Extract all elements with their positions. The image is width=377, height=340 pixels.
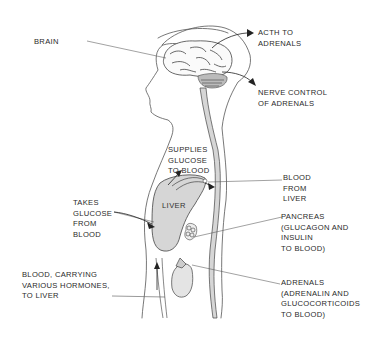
spinal-cord-icon <box>200 88 220 318</box>
label-line: ADRENALS <box>281 278 360 289</box>
label-line: BLOOD, CARRYING <box>22 270 110 281</box>
label-line: NERVE CONTROL <box>258 88 327 99</box>
label-line: VARIOUS HORMONES, <box>22 281 110 292</box>
label-line: TO BLOOD) <box>281 244 349 255</box>
label-line: GLUCOSE <box>73 209 112 220</box>
label-line: FROM <box>73 219 112 230</box>
pancreas-icon <box>185 223 197 240</box>
label-line: SUPPLIES <box>168 145 210 156</box>
label-brain: BRAIN <box>34 37 59 48</box>
hormone-glucose-diagram: BRAIN ACTH TOADRENALS NERVE CONTROLOF AD… <box>0 0 377 340</box>
label-line: OF ADRENALS <box>258 99 327 110</box>
liver-icon <box>152 175 206 251</box>
label-line: TO BLOOD) <box>281 310 360 321</box>
label-line: BLOOD <box>283 173 311 184</box>
label-line: (ADRENALIN AND <box>281 289 360 300</box>
kidney-adrenal-icon <box>172 258 193 297</box>
label-supplies-glucose: SUPPLIESGLUCOSETO BLOOD <box>168 145 210 177</box>
label-line: (GLUCAGON AND <box>281 223 349 234</box>
label-takes-glucose: TAKESGLUCOSEFROMBLOOD <box>73 198 112 240</box>
label-acth: ACTH TOADRENALS <box>258 28 301 49</box>
brain-icon <box>163 41 232 77</box>
cerebellum-icon <box>198 74 227 89</box>
takes-glucose-arrow-icon <box>114 212 152 224</box>
label-pancreas: PANCREAS(GLUCAGON ANDINSULINTO BLOOD) <box>281 212 349 254</box>
label-adrenals: ADRENALS(ADRENALIN ANDGLUCOCORTICOIDSTO … <box>281 278 360 320</box>
label-line: TO BLOOD <box>168 166 210 177</box>
label-blood-carrying: BLOOD, CARRYINGVARIOUS HORMONES,TO LIVER <box>22 270 110 302</box>
label-nerve-control: NERVE CONTROLOF ADRENALS <box>258 88 327 109</box>
label-line: TO LIVER <box>22 291 110 302</box>
label-line: GLUCOSE <box>168 156 210 167</box>
label-line: PANCREAS <box>281 212 349 223</box>
label-blood-from-liver: BLOODFROMLIVER <box>283 173 311 205</box>
label-line: TAKES <box>73 198 112 209</box>
label-line: LIVER <box>283 194 311 205</box>
label-line: BRAIN <box>34 37 59 48</box>
label-line: GLUCOCORTICOIDS <box>281 299 360 310</box>
label-line: ADRENALS <box>258 39 301 50</box>
label-liver-organ: LIVER <box>162 201 186 210</box>
label-line: FROM <box>283 184 311 195</box>
label-line: BLOOD <box>73 230 112 241</box>
label-line: ACTH TO <box>258 28 301 39</box>
label-line: INSULIN <box>281 233 349 244</box>
